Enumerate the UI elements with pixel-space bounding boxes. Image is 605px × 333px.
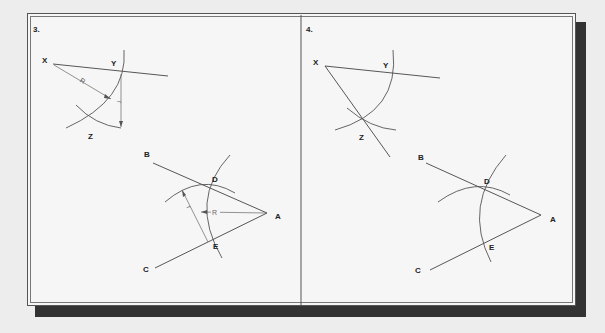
- line-ca: [155, 213, 267, 268]
- arc-centered-e: [438, 186, 510, 202]
- point-label-x: X: [313, 58, 319, 67]
- dimension-r-line: [201, 212, 266, 213]
- panel-4-top-construction: X Y Z: [313, 50, 440, 157]
- line-xz: [325, 66, 390, 157]
- panel-3: 3. R r X Y Z R: [33, 25, 281, 274]
- line-ba: [426, 163, 541, 215]
- point-label-c: C: [415, 266, 421, 275]
- point-label-y: Y: [383, 61, 389, 70]
- dimension-r-small-line: [182, 190, 208, 242]
- point-label-a: A: [275, 212, 281, 221]
- panel-number-3: 3.: [33, 25, 40, 34]
- arrowhead-icon: [119, 121, 123, 127]
- panel-3-top-construction: R r X Y Z: [42, 50, 168, 141]
- panel-3-bottom-construction: R r B A C D E: [143, 150, 281, 274]
- panel-4: 4. X Y Z B A C D E: [306, 25, 556, 275]
- panel-4-bottom-construction: B A C D E: [415, 153, 556, 275]
- point-label-z: Z: [88, 132, 93, 141]
- point-label-e: E: [489, 243, 495, 252]
- point-label-b: B: [418, 153, 424, 162]
- arc-centered-a: [207, 155, 230, 258]
- arc-centered-e: [165, 184, 235, 202]
- point-label-a: A: [550, 215, 556, 224]
- point-label-z: Z: [359, 133, 364, 142]
- construction-diagram: 3. R r X Y Z R: [0, 0, 605, 333]
- point-label-e: E: [213, 242, 219, 251]
- point-label-d: D: [212, 175, 218, 184]
- point-label-b: B: [144, 150, 150, 159]
- point-label-x: X: [42, 56, 48, 65]
- point-label-d: D: [484, 177, 490, 186]
- arrowhead-icon: [182, 190, 186, 197]
- point-label-y: Y: [111, 59, 117, 68]
- dimension-label-r: r: [116, 101, 123, 104]
- dimension-label-R: R: [212, 209, 217, 216]
- arrowhead-icon: [201, 210, 207, 214]
- line-ca: [430, 215, 541, 270]
- panel-number-4: 4.: [306, 25, 313, 34]
- point-label-c: C: [143, 265, 149, 274]
- arc-centered-y: [347, 108, 396, 130]
